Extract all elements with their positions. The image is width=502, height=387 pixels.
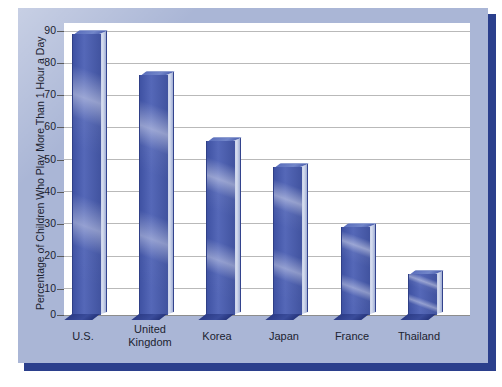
bar-us-base-face <box>64 314 100 320</box>
bar-united-kingdom-base-face <box>131 314 167 320</box>
bar-france <box>341 227 369 315</box>
gridline-40 <box>64 191 470 192</box>
y-tick-label-20: 20 <box>34 250 56 261</box>
gridline-50 <box>64 159 470 160</box>
x-category-label-united-kingdom: United Kingdom <box>119 323 181 349</box>
y-axis-title: Percentage of Children Who Play More Tha… <box>34 36 46 310</box>
gridline-20 <box>64 256 470 257</box>
bar-korea-base-face <box>198 314 234 320</box>
bar-japan-front-face <box>273 167 302 315</box>
y-tick-label-80: 80 <box>34 57 56 68</box>
y-tick-mark-10 <box>57 289 64 290</box>
x-category-label-thailand: Thailand <box>388 330 450 343</box>
bar-japan <box>273 167 301 315</box>
y-tick-mark-70 <box>57 95 64 96</box>
y-tick-label-0: 0 <box>34 309 56 320</box>
bar-thailand-base-face <box>400 314 436 320</box>
y-tick-label-40: 40 <box>34 186 56 197</box>
bar-korea <box>206 141 234 315</box>
gridline-90 <box>64 31 470 32</box>
bar-france-base-face <box>333 314 369 320</box>
y-tick-mark-50 <box>57 160 64 161</box>
y-tick-mark-60 <box>57 127 64 128</box>
gridline-30 <box>64 223 470 224</box>
gridline-80 <box>64 63 470 64</box>
chart-frame: Percentage of Children Who Play More Tha… <box>18 8 488 363</box>
y-tick-mark-0 <box>57 315 64 316</box>
plot-area <box>64 23 470 315</box>
gridline-70 <box>64 95 470 96</box>
y-tick-label-90: 90 <box>34 25 56 36</box>
bar-us-front-face <box>72 34 101 315</box>
x-category-label-us: U.S. <box>52 330 114 343</box>
y-tick-label-50: 50 <box>34 154 56 165</box>
bar-korea-front-face <box>206 141 235 315</box>
y-tick-mark-20 <box>57 256 64 257</box>
bar-united-kingdom <box>139 75 167 315</box>
y-tick-mark-90 <box>57 31 64 32</box>
y-tick-mark-80 <box>57 63 64 64</box>
x-category-label-korea: Korea <box>186 330 248 343</box>
y-tick-label-70: 70 <box>34 89 56 100</box>
bar-japan-base-face <box>265 314 301 320</box>
y-tick-mark-30 <box>57 224 64 225</box>
y-tick-label-10: 10 <box>34 283 56 294</box>
bar-us <box>72 34 100 315</box>
bar-france-front-face <box>341 227 370 315</box>
bar-thailand-front-face <box>408 274 437 315</box>
bar-thailand <box>408 274 436 315</box>
gridline-60 <box>64 127 470 128</box>
x-category-label-japan: Japan <box>253 330 315 343</box>
bar-united-kingdom-front-face <box>139 75 168 315</box>
y-tick-label-30: 30 <box>34 218 56 229</box>
y-tick-mark-40 <box>57 192 64 193</box>
y-tick-label-60: 60 <box>34 121 56 132</box>
bar-chart-figure: Percentage of Children Who Play More Tha… <box>0 0 502 387</box>
x-category-label-france: France <box>321 330 383 343</box>
